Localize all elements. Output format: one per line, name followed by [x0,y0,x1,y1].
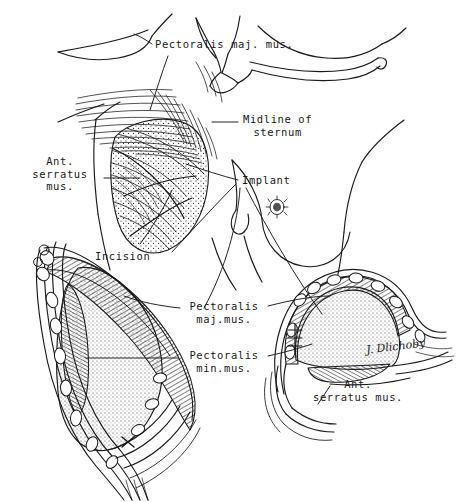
label-pectoralis-minor-mid: Pectoralis min.mus. [183,349,265,374]
cross-section-left [34,242,200,500]
label-pectoralis-major-top: Pectoralis maj. mus. [155,38,293,51]
label-incision: Incision [95,250,150,263]
cross-section-right [265,269,454,440]
illustration-artwork [0,0,464,502]
nipple-areola [266,196,288,218]
label-ant-serratus-bottom: Ant. serratus mus. [297,378,419,403]
label-midline-of-sternum: Midline of sternum [243,113,312,138]
label-pectoralis-major-mid: Pectoralis maj.mus. [183,300,265,325]
anatomical-illustration: Pectoralis maj. mus. Midline of sternum … [0,0,464,502]
pectoralis-major-torso [108,119,209,253]
label-implant: Implant [242,174,290,187]
label-ant-serratus-left: Ant. serratus mus. [18,155,102,193]
